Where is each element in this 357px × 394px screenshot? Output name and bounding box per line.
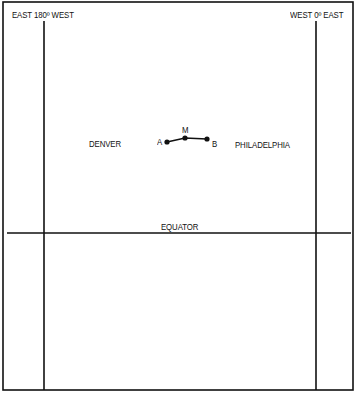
equator-label: EQUATOR bbox=[161, 222, 198, 232]
point-a-label: A bbox=[157, 137, 162, 147]
point-m-label: M bbox=[182, 125, 188, 135]
meridian-0-label: WEST 0º EAST bbox=[290, 10, 343, 20]
point-b-label: B bbox=[212, 139, 217, 149]
map-diagram bbox=[0, 0, 357, 394]
point-a-dot bbox=[164, 139, 169, 144]
outer-border bbox=[3, 2, 353, 390]
point-m-dot bbox=[182, 135, 187, 140]
point-b-dot bbox=[204, 136, 209, 141]
city-philadelphia-label: PHILADELPHIA bbox=[235, 140, 290, 150]
meridian-180-label: EAST 180º WEST bbox=[12, 10, 74, 20]
city-denver-label: DENVER bbox=[89, 139, 121, 149]
